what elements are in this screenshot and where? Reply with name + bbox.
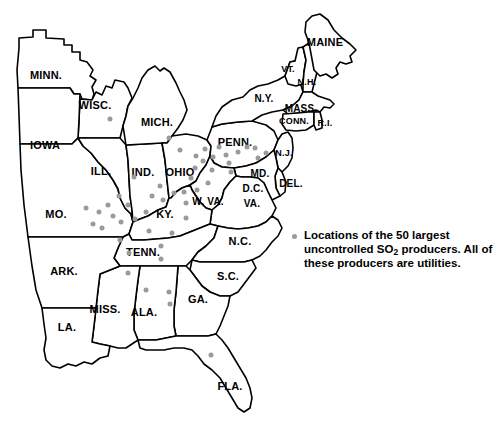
producer-dot bbox=[178, 148, 183, 153]
producer-dot bbox=[167, 136, 172, 141]
producer-dot bbox=[97, 210, 102, 215]
producer-dot bbox=[159, 257, 164, 262]
producer-dot bbox=[256, 156, 261, 161]
producer-dot bbox=[126, 271, 131, 276]
map-legend: Locations of the 50 largest uncontrolled… bbox=[292, 229, 500, 271]
producer-dot bbox=[127, 251, 132, 256]
state-shape-iowa bbox=[18, 88, 80, 144]
producer-dot bbox=[159, 244, 164, 249]
producer-dot bbox=[126, 203, 131, 208]
producer-dot bbox=[227, 161, 232, 166]
producer-dot bbox=[201, 159, 206, 164]
producer-dot bbox=[203, 147, 208, 152]
producer-dot bbox=[211, 155, 216, 160]
producer-dot bbox=[236, 150, 241, 155]
producer-dot bbox=[182, 190, 187, 195]
producer-dot bbox=[147, 229, 152, 234]
legend-subscript: 2 bbox=[393, 247, 398, 257]
producer-dot bbox=[194, 154, 199, 159]
state-shape-rhode-island bbox=[314, 112, 322, 130]
producer-dot bbox=[224, 153, 229, 158]
producer-dot bbox=[84, 206, 89, 211]
producer-dot bbox=[209, 353, 214, 358]
producer-dot bbox=[184, 216, 189, 221]
producer-dot bbox=[193, 166, 198, 171]
so2-producers-map-page: MINN.WISC.IOWAMICH.ILL.IND.OHIOMO.KY.W. … bbox=[0, 0, 503, 433]
state-shape-connecticut bbox=[282, 112, 314, 131]
producer-dot bbox=[264, 151, 269, 156]
producer-dot bbox=[206, 181, 211, 186]
producer-dot bbox=[167, 290, 172, 295]
producer-dot bbox=[217, 145, 222, 150]
producer-dot bbox=[168, 302, 173, 307]
producer-dot bbox=[195, 188, 200, 193]
state-shape-michigan bbox=[123, 66, 187, 145]
producer-dot bbox=[132, 175, 137, 180]
eastern-us-map-graphic bbox=[0, 0, 503, 433]
producer-dot bbox=[144, 288, 149, 293]
producer-dot bbox=[100, 226, 105, 231]
legend-text: Locations of the 50 largest uncontrolled… bbox=[304, 229, 500, 271]
producer-dot bbox=[133, 217, 138, 222]
producer-dot bbox=[189, 176, 194, 181]
producer-dot bbox=[172, 191, 177, 196]
producer-dot bbox=[158, 184, 163, 189]
producer-dot bbox=[91, 222, 96, 227]
producer-dot bbox=[117, 194, 122, 199]
producer-dot bbox=[245, 145, 250, 150]
legend-dot-icon bbox=[292, 234, 297, 239]
producer-dot bbox=[170, 231, 175, 236]
producer-dot bbox=[108, 117, 113, 122]
producer-dot bbox=[229, 170, 234, 175]
state-shape-florida bbox=[138, 334, 252, 412]
producer-dot bbox=[106, 203, 111, 208]
producer-dot bbox=[118, 238, 123, 243]
producer-dot bbox=[210, 168, 215, 173]
producer-dot bbox=[184, 201, 189, 206]
producer-dot bbox=[144, 210, 149, 215]
producer-dot bbox=[161, 198, 166, 203]
producer-dot bbox=[150, 194, 155, 199]
producer-dot bbox=[253, 146, 258, 151]
producer-dot bbox=[119, 220, 124, 225]
producer-dot bbox=[111, 214, 116, 219]
